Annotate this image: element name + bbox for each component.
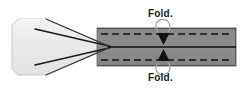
- flat-sheet-group: [12, 19, 110, 75]
- fold-diagram-figure: Fold. Fold.: [0, 0, 250, 91]
- fold-label-top: Fold.: [148, 8, 173, 20]
- fold-diagram-canvas: [0, 0, 250, 91]
- flat-sheet-polygon: [12, 19, 110, 75]
- fold-label-bottom: Fold.: [148, 72, 173, 84]
